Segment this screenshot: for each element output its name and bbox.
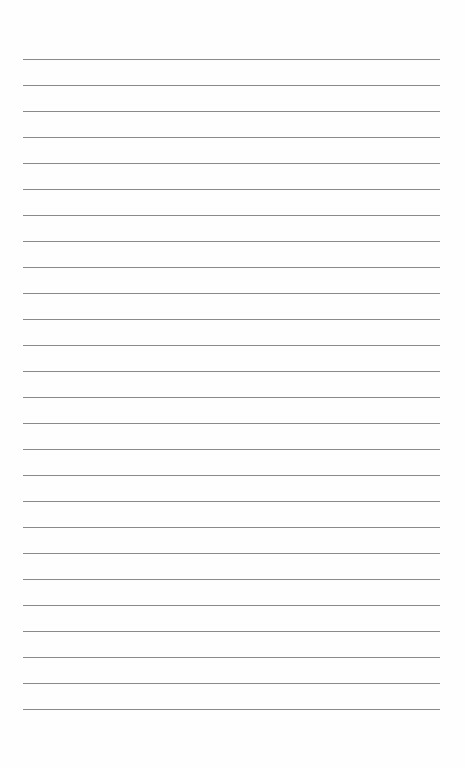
ruled-line bbox=[23, 475, 440, 476]
ruled-line bbox=[23, 85, 440, 86]
ruled-line bbox=[23, 345, 440, 346]
ruled-line bbox=[23, 267, 440, 268]
ruled-line bbox=[23, 423, 440, 424]
ruled-line bbox=[23, 631, 440, 632]
ruled-line bbox=[23, 605, 440, 606]
ruled-line bbox=[23, 683, 440, 684]
ruled-line bbox=[23, 527, 440, 528]
ruled-line bbox=[23, 189, 440, 190]
ruled-line bbox=[23, 397, 440, 398]
ruled-line bbox=[23, 137, 440, 138]
ruled-line bbox=[23, 553, 440, 554]
ruled-line bbox=[23, 215, 440, 216]
ruled-line bbox=[23, 319, 440, 320]
ruled-line bbox=[23, 657, 440, 658]
ruled-line bbox=[23, 111, 440, 112]
ruled-line bbox=[23, 293, 440, 294]
ruled-line bbox=[23, 241, 440, 242]
ruled-line bbox=[23, 709, 440, 710]
ruled-line bbox=[23, 579, 440, 580]
ruled-line bbox=[23, 163, 440, 164]
ruled-line bbox=[23, 371, 440, 372]
ruled-line bbox=[23, 501, 440, 502]
lined-page bbox=[0, 0, 465, 768]
ruled-line bbox=[23, 59, 440, 60]
ruled-line bbox=[23, 449, 440, 450]
